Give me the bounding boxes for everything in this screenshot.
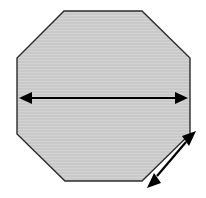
octagon-fill (17, 11, 190, 181)
figure-root (0, 0, 206, 198)
octagon-diagram-svg (0, 0, 206, 198)
